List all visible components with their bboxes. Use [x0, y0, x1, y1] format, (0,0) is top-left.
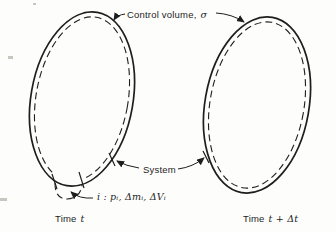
element-properties-label: i : pᵢ, Δmᵢ, ΔVᵢ: [97, 191, 166, 202]
caption-time-t-text: Time: [55, 213, 77, 224]
caption-time-t: Timet: [55, 213, 85, 224]
control-volume-label-text: Control volume,: [127, 9, 197, 20]
caption-time-t-dt: Timet + Δt: [243, 213, 298, 224]
system-arrow-left: [117, 161, 139, 168]
scan-speck: [8, 56, 13, 59]
control-volume-arrow-left: [114, 14, 125, 20]
caption-time-t-dt-symbol: t + Δt: [269, 213, 299, 224]
sigma-symbol: σ: [201, 9, 208, 20]
system-label: System: [143, 164, 176, 175]
control-surface-right: [190, 8, 323, 201]
system-arrow-right: [178, 158, 204, 169]
caption-time-t-symbol: t: [81, 213, 85, 224]
caption-time-t-dt-text: Time: [243, 213, 265, 224]
element-i-arrow: [71, 192, 93, 198]
right-figure: [190, 8, 323, 201]
control-volume-arrow-right: [216, 13, 244, 22]
system-boundary-left: [22, 9, 141, 188]
system-boundary-right: [196, 14, 318, 196]
control-volume-diagram: Control volume,σ System i : pᵢ, Δmᵢ, ΔVᵢ…: [0, 0, 336, 232]
left-figure: [16, 3, 147, 199]
boundary-tick: [109, 153, 115, 166]
control-volume-label: Control volume,σ: [127, 9, 208, 20]
scan-speck: [33, 3, 36, 5]
scan-speck: [0, 198, 7, 201]
diagram-canvas: Control volume,σ System i : pᵢ, Δmᵢ, ΔVᵢ…: [0, 0, 336, 232]
